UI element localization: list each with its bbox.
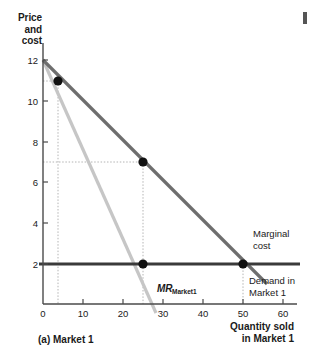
data-point-q25-p7 [138,157,147,166]
x-axis-title-line-2: in Market 1 [242,333,295,344]
mr-label-subscript: Market1 [172,288,197,295]
x-tick-label-30: 30 [158,308,169,319]
y-tick-label-8: 8 [33,137,38,148]
demand-annotation: Demand in Market 1 [249,275,295,298]
x-axis-title: Quantity sold in Market 1 [230,321,294,344]
series-line-demand [43,60,267,284]
guide-lines [43,81,243,304]
data-point-q50-p2 [238,259,247,268]
cropped-edge-fragment [303,12,307,24]
y-tick-label-6: 6 [33,177,38,188]
mr-annotation: MR Market1 [157,283,197,295]
y-tick-label-12: 12 [27,55,38,66]
mr-label-main: MR [157,283,173,294]
demand-label-line-1: Demand in [249,275,295,286]
x-axis-title-line-1: Quantity sold [230,321,294,332]
plot-area: 12 10 8 6 4 2 0 10 20 30 40 50 60 [0,0,309,362]
figure-caption: (a) Market 1 [38,334,94,345]
data-point-q6-p11 [53,76,62,85]
x-axis-ticks [83,299,283,304]
data-points [53,76,247,268]
x-tick-label-40: 40 [198,308,209,319]
series-line-mr [43,60,156,313]
y-tick-label-10: 10 [27,96,38,107]
data-point-q25-p2 [138,259,147,268]
demand-label-line-2: Market 1 [249,287,286,298]
y-tick-label-4: 4 [33,218,38,229]
x-tick-label-50: 50 [238,308,249,319]
x-tick-label-20: 20 [118,308,129,319]
marginal-cost-label-line-1: Marginal [253,228,289,239]
x-tick-label-60: 60 [278,308,289,319]
economics-chart-figure: Price and cost 1 [0,0,309,362]
marginal-cost-annotation: Marginal cost [253,228,289,251]
x-axis-tick-labels: 0 10 20 30 40 50 60 [40,308,288,319]
marginal-cost-label-line-2: cost [253,240,271,251]
y-tick-label-2: 2 [33,259,38,270]
x-tick-label-10: 10 [78,308,89,319]
y-axis-tick-labels: 12 10 8 6 4 2 [27,55,38,270]
x-tick-label-0: 0 [40,308,45,319]
